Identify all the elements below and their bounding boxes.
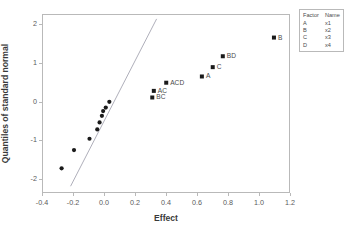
x-tick-label: 0.8 bbox=[223, 199, 233, 206]
legend-name-cell: x1 bbox=[319, 20, 340, 27]
y-tick-label: 1 bbox=[20, 59, 37, 66]
x-tick-label: 1.2 bbox=[285, 199, 295, 206]
factor-legend: Factor Name Ax1Bx2Cx3Dx4 bbox=[299, 9, 344, 52]
data-point-markers bbox=[60, 36, 276, 171]
data-point-circle bbox=[104, 106, 108, 110]
x-tick-label: 0.0 bbox=[99, 199, 109, 206]
x-tick-label: -0.2 bbox=[67, 199, 79, 206]
plot-area: BCACACDACBDB bbox=[42, 14, 290, 193]
legend-factor-cell: B bbox=[303, 27, 319, 34]
data-point-label: BD bbox=[227, 53, 236, 60]
data-point-square bbox=[211, 65, 215, 69]
legend-header-name: Name bbox=[319, 12, 340, 20]
x-tick-label: 1.0 bbox=[254, 199, 264, 206]
x-axis-title: Effect bbox=[42, 213, 290, 223]
normal-probability-plot-figure: Quantiles of standard normal 210-1-2 -0.… bbox=[0, 0, 348, 228]
legend-row: Cx3 bbox=[303, 34, 340, 41]
data-point-label: BC bbox=[156, 94, 165, 101]
data-point-circle bbox=[97, 120, 101, 124]
legend-header-factor: Factor bbox=[303, 12, 319, 20]
data-point-circle bbox=[100, 114, 104, 118]
data-point-square bbox=[150, 95, 154, 99]
data-point-circle bbox=[101, 109, 105, 113]
legend-factor-cell: C bbox=[303, 34, 319, 41]
y-tick-label: 2 bbox=[20, 20, 37, 27]
legend-table: Factor Name Ax1Bx2Cx3Dx4 bbox=[303, 12, 340, 48]
legend-row: Dx4 bbox=[303, 41, 340, 48]
data-point-circle bbox=[60, 166, 64, 170]
data-point-label: ACD bbox=[170, 79, 184, 86]
legend-name-cell: x4 bbox=[319, 41, 340, 48]
legend-name-cell: x3 bbox=[319, 34, 340, 41]
reference-line bbox=[71, 19, 157, 186]
data-point-square bbox=[272, 36, 276, 40]
x-tick-label: 0.4 bbox=[161, 199, 171, 206]
data-point-circle bbox=[87, 137, 91, 141]
data-point-circle bbox=[95, 127, 99, 131]
y-tick-label: -2 bbox=[20, 176, 37, 183]
data-point-circle bbox=[107, 100, 111, 104]
legend-factor-cell: D bbox=[303, 41, 319, 48]
plot-data-layer bbox=[43, 15, 291, 194]
legend-row: Ax1 bbox=[303, 20, 340, 27]
y-tick-label: 0 bbox=[20, 98, 37, 105]
y-axis-title: Quantiles of standard normal bbox=[0, 14, 13, 193]
legend-factor-cell: A bbox=[303, 20, 319, 27]
y-tick-label: -1 bbox=[20, 137, 37, 144]
x-tick-label: 0.6 bbox=[192, 199, 202, 206]
legend-name-cell: x2 bbox=[319, 27, 340, 34]
data-point-label: B bbox=[278, 34, 282, 41]
data-point-circle bbox=[72, 148, 76, 152]
data-point-label: A bbox=[206, 73, 210, 80]
x-tick-label: 0.2 bbox=[130, 199, 140, 206]
data-point-square bbox=[200, 74, 204, 78]
data-point-label: AC bbox=[158, 88, 167, 95]
x-tick-label: -0.4 bbox=[36, 199, 48, 206]
data-point-square bbox=[164, 81, 168, 85]
data-point-label: C bbox=[217, 64, 222, 71]
legend-row: Bx2 bbox=[303, 27, 340, 34]
data-point-square bbox=[221, 54, 225, 58]
legend-header-row: Factor Name bbox=[303, 12, 340, 20]
data-point-square bbox=[152, 89, 156, 93]
legend-body: Ax1Bx2Cx3Dx4 bbox=[303, 20, 340, 49]
